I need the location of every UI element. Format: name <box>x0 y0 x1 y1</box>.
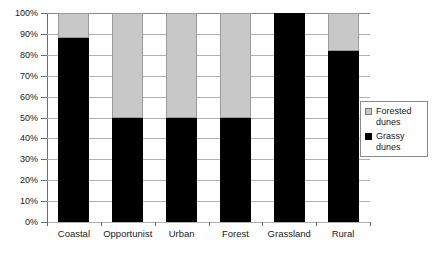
gridline <box>47 180 370 181</box>
bar-group <box>274 13 305 222</box>
x-axis-labels: CoastalOpportunistUrbanForestGrasslandRu… <box>47 228 370 246</box>
bar-segment-grassy-dunes <box>274 13 305 222</box>
plot-area <box>47 13 370 222</box>
y-axis-tick <box>41 76 47 77</box>
y-axis-labels: 100%90%80%70%60%50%40%30%20%10%0% <box>0 13 40 223</box>
x-axis-tick <box>262 222 263 226</box>
legend-item-label: Foresteddunes <box>376 106 412 127</box>
y-axis-tick <box>41 159 47 160</box>
legend-item-forested-dunes: Foresteddunes <box>365 106 424 127</box>
bar-segment-forested-dunes <box>166 13 197 118</box>
black-square-icon <box>365 133 372 140</box>
y-axis-tick <box>41 13 47 14</box>
y-axis-tick-label: 0% <box>0 217 38 227</box>
bar-segment-forested-dunes <box>58 13 89 38</box>
bar-segment-forested-dunes <box>328 13 359 51</box>
gray-square-icon <box>365 108 372 115</box>
y-axis-tick-label: 60% <box>0 92 38 102</box>
bar-segment-grassy-dunes <box>58 38 89 222</box>
y-axis-tick-label: 80% <box>0 50 38 60</box>
legend-item-label: Grassydunes <box>376 131 405 152</box>
y-axis-tick-label: 90% <box>0 29 38 39</box>
x-axis-tick <box>316 222 317 226</box>
y-axis-tick <box>41 180 47 181</box>
stacked-bar-chart: 100%90%80%70%60%50%40%30%20%10%0% Coasta… <box>0 0 432 257</box>
x-axis-category-label: Opportunist <box>101 228 155 240</box>
bar-segment-grassy-dunes <box>328 51 359 222</box>
x-axis-tick <box>209 222 210 226</box>
y-axis-tick-label: 100% <box>0 8 38 18</box>
bar-group <box>112 13 143 222</box>
y-axis-tick-label: 20% <box>0 175 38 185</box>
bar-segment-grassy-dunes <box>220 118 251 223</box>
x-axis-category-label: Coastal <box>47 228 101 240</box>
bar-segment-forested-dunes <box>220 13 251 118</box>
gridline <box>47 13 370 14</box>
y-axis-tick <box>41 138 47 139</box>
bar-group <box>328 13 359 222</box>
bar-group <box>166 13 197 222</box>
y-axis-tick <box>41 34 47 35</box>
bar-segment-grassy-dunes <box>112 118 143 223</box>
x-axis-category-label: Urban <box>155 228 209 240</box>
chart-legend: Foresteddunes Grassydunes <box>360 101 428 157</box>
bar-segment-forested-dunes <box>112 13 143 118</box>
legend-item-grassy-dunes: Grassydunes <box>365 131 424 152</box>
y-axis-tick <box>41 97 47 98</box>
gridline <box>47 97 370 98</box>
y-axis-tick-label: 50% <box>0 113 38 123</box>
y-axis-tick-label: 70% <box>0 71 38 81</box>
y-axis-tick-label: 30% <box>0 154 38 164</box>
gridline <box>47 159 370 160</box>
x-axis-category-label: Rural <box>316 228 370 240</box>
x-axis-tick <box>101 222 102 226</box>
y-axis-tick-label: 10% <box>0 196 38 206</box>
gridline <box>47 76 370 77</box>
x-axis-category-label: Grassland <box>262 228 316 240</box>
bar-segment-grassy-dunes <box>166 118 197 223</box>
gridline <box>47 138 370 139</box>
y-axis-tick-label: 40% <box>0 133 38 143</box>
bar-group <box>220 13 251 222</box>
x-axis-tick <box>47 222 48 226</box>
gridline <box>47 201 370 202</box>
y-axis-tick <box>41 55 47 56</box>
x-axis-tick <box>370 222 371 226</box>
bar-group <box>58 13 89 222</box>
x-axis-category-label: Forest <box>209 228 263 240</box>
x-axis-tick <box>155 222 156 226</box>
y-axis-tick <box>41 201 47 202</box>
gridline <box>47 118 370 119</box>
gridline <box>47 55 370 56</box>
y-axis-tick <box>41 118 47 119</box>
gridline <box>47 34 370 35</box>
